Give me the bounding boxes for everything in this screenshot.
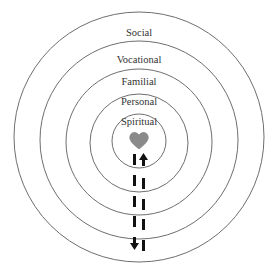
label-social: Social	[126, 27, 152, 38]
down-arrow-icon	[130, 243, 139, 250]
faint-vertical-text: · · ·	[138, 196, 143, 202]
concentric-life-domains-diagram: Social Vocational Familial Personal Spir…	[0, 0, 278, 267]
svg-text:· · ·: · · ·	[138, 196, 143, 202]
label-spiritual: Spiritual	[121, 116, 157, 127]
heart-icon	[130, 132, 148, 149]
up-arrow-icon	[139, 153, 148, 160]
label-vocational: Vocational	[117, 54, 162, 65]
label-personal: Personal	[121, 96, 157, 107]
label-familial: Familial	[122, 76, 157, 87]
